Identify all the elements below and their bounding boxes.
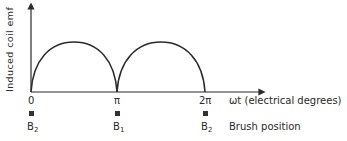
brush-label-b2-start: B2: [27, 122, 38, 134]
emf-curve-arch-2: [117, 42, 205, 92]
tick-label-pi: π: [114, 96, 120, 106]
y-axis-label: Induced coil emf: [4, 7, 15, 92]
emf-diagram: [0, 0, 347, 141]
brush-marker-b2-end: [203, 111, 208, 116]
brush-label-b2-end: B2: [201, 122, 212, 134]
brush-label-b1: B1: [113, 122, 124, 134]
brush-marker-b1: [115, 111, 120, 116]
tick-label-2pi: 2π: [199, 96, 211, 106]
x-axis-label: ωt (electrical degrees): [229, 96, 342, 106]
tick-label-0: 0: [28, 96, 34, 106]
brush-marker-b2-start: [29, 111, 34, 116]
emf-curve-arch-1: [31, 42, 117, 92]
brush-position-label: Brush position: [229, 122, 301, 132]
